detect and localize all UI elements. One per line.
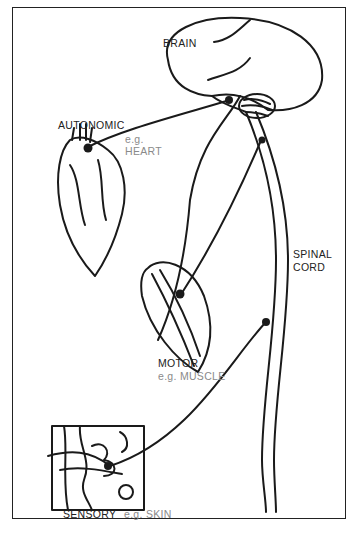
motor-nerve — [180, 138, 262, 296]
label-spinal: SPINAL — [293, 248, 332, 260]
body-outline — [158, 96, 240, 340]
sensory-nerve — [110, 322, 266, 466]
label-autonomic-example: HEART — [125, 145, 162, 157]
label-brain: BRAIN — [163, 37, 197, 49]
label-sensory: SENSORY — [63, 508, 116, 520]
label-cord: CORD — [293, 261, 325, 273]
label-motor-example: e.g. MUSCLE — [158, 370, 226, 382]
label-sensory-example: e.g. SKIN — [124, 508, 172, 520]
label-autonomic-example-prefix: e.g. — [125, 133, 144, 145]
spinal-cord — [246, 112, 276, 512]
label-autonomic: AUTONOMIC — [58, 119, 125, 131]
heart — [58, 138, 125, 276]
label-motor: MOTOR — [158, 357, 198, 369]
